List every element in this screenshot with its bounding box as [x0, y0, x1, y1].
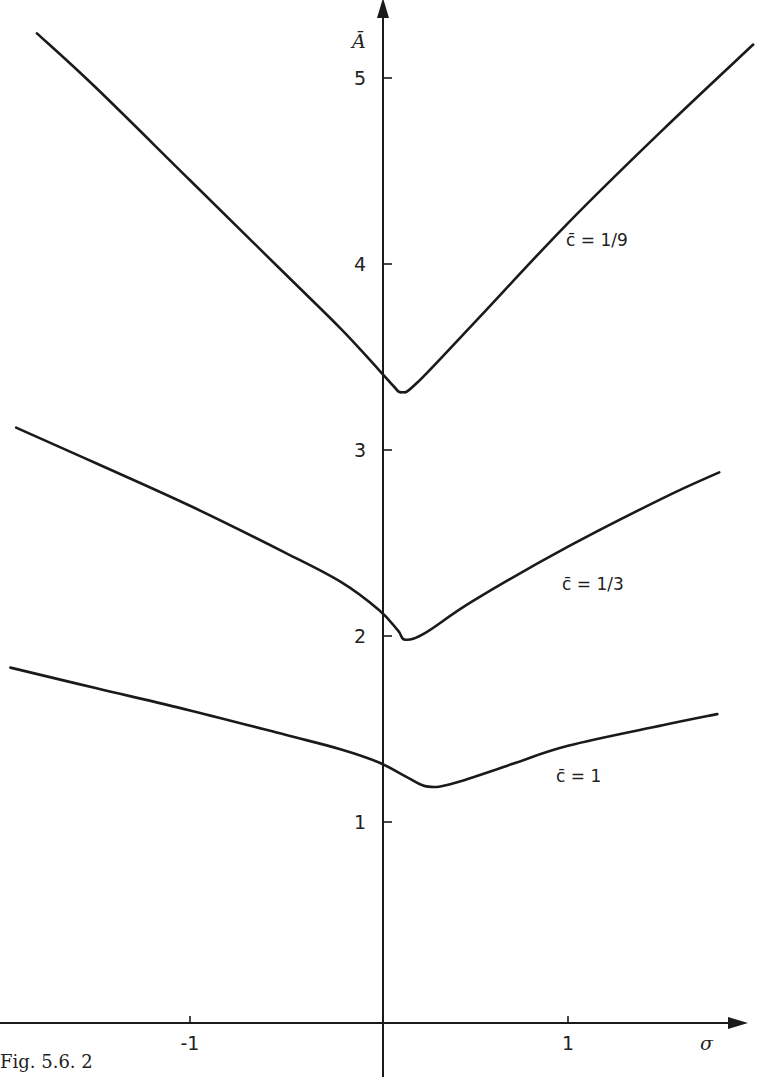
x-axis-label: σ: [700, 1032, 714, 1054]
curve-label-c-1-9: c̄ = 1/9: [566, 230, 628, 250]
curve-c-1-3: [16, 428, 719, 640]
curves: [10, 33, 753, 787]
y-tick-label: 1: [354, 811, 366, 833]
tick-marks: [190, 78, 568, 1023]
curve-label-c-1-3: c̄ = 1/3: [562, 574, 624, 594]
y-tick-label: 2: [354, 625, 366, 647]
y-tick-label: 4: [354, 253, 366, 275]
curve-c-1-9: [37, 33, 753, 392]
chart: 12345-11 Ā σ c̄ = 1/9 c̄ = 1/3 c̄ = 1: [0, 0, 759, 1077]
tick-labels: 12345-11: [181, 67, 575, 1054]
curve-label-c-1: c̄ = 1: [556, 766, 601, 786]
y-axis-arrow-icon: [377, 0, 389, 18]
y-tick-label: 3: [354, 439, 366, 461]
x-tick-label: -1: [181, 1032, 200, 1054]
curve-c-1: [10, 668, 717, 787]
y-tick-label: 5: [354, 67, 366, 89]
axes: [0, 10, 735, 1077]
y-axis-label: Ā: [350, 30, 366, 52]
x-tick-label: 1: [562, 1032, 574, 1054]
x-axis-arrow-icon: [728, 1017, 748, 1029]
figure-caption: Fig. 5.6. 2: [0, 1051, 93, 1072]
